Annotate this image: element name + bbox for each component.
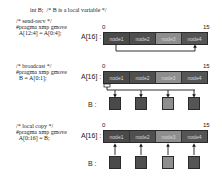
broadcast-source-marker bbox=[104, 84, 110, 87]
data-movement-arrows bbox=[0, 0, 222, 181]
send-recv-arrow bbox=[116, 45, 195, 51]
